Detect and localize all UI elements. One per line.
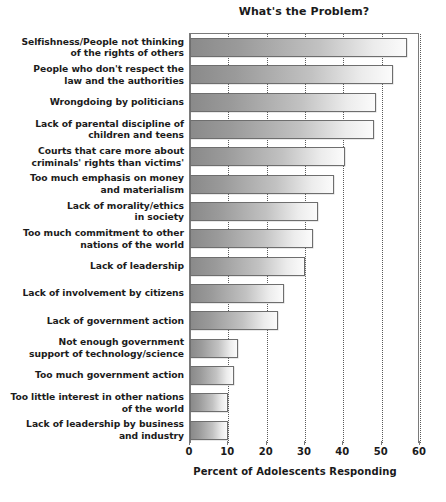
bar-row — [190, 198, 418, 225]
bar-row — [190, 389, 418, 416]
x-tick-mark — [227, 441, 228, 445]
bar-row — [190, 307, 418, 334]
category-label-line: and industry — [0, 430, 184, 442]
category-label: Too much government action — [0, 369, 184, 381]
category-label-line: Courts that care more about — [0, 145, 184, 157]
x-tick-label: 50 — [374, 446, 388, 457]
x-tick-mark — [304, 441, 305, 445]
bar[interactable] — [190, 93, 376, 112]
category-label: Lack of morality/ethicsin society — [0, 200, 184, 223]
bar[interactable] — [190, 202, 318, 221]
x-axis-title: Percent of Adolescents Responding — [150, 466, 440, 477]
category-label: Courts that care more aboutcriminals' ri… — [0, 145, 184, 168]
category-label: Too little interest in other nationsof t… — [0, 391, 184, 414]
x-axis-ticks: 0102030405060 — [189, 446, 419, 462]
x-tick-mark — [381, 441, 382, 445]
category-label-line: People who don't respect the — [0, 63, 184, 75]
page-title: What's the Problem? — [189, 5, 419, 18]
category-label-line: criminals' rights than victims' — [0, 157, 184, 169]
x-tick-label: 20 — [259, 446, 273, 457]
category-label-line: of the rights of others — [0, 47, 184, 59]
category-label: Lack of leadership — [0, 260, 184, 272]
bars-layer — [190, 34, 418, 443]
category-labels: Selfishness/People not thinkingof the ri… — [0, 33, 184, 443]
category-label: Too much commitment to othernations of t… — [0, 227, 184, 250]
gridline-60 — [420, 34, 421, 443]
bar-row — [190, 143, 418, 170]
category-label: Selfishness/People not thinkingof the ri… — [0, 36, 184, 59]
x-tick-label: 0 — [186, 446, 193, 457]
bar-row — [190, 253, 418, 280]
chart-root: What's the Problem? Selfishness/People n… — [0, 0, 446, 502]
x-tick-mark — [189, 441, 190, 445]
bar[interactable] — [190, 339, 238, 358]
category-label-line: Too little interest in other nations — [0, 391, 184, 403]
category-label-line: Lack of involvement by citizens — [0, 287, 184, 299]
bar-row — [190, 116, 418, 143]
bar-row — [190, 335, 418, 362]
category-label: People who don't respect thelaw and the … — [0, 63, 184, 86]
bar[interactable] — [190, 257, 305, 276]
x-tick-mark — [419, 441, 420, 445]
bar-row — [190, 171, 418, 198]
category-label-line: law and the authorities — [0, 75, 184, 87]
category-label-line: Lack of government action — [0, 315, 184, 327]
category-label: Lack of involvement by citizens — [0, 287, 184, 299]
x-tick-label: 40 — [335, 446, 349, 457]
category-label: Not enough governmentsupport of technolo… — [0, 336, 184, 359]
category-label-line: Lack of leadership — [0, 260, 184, 272]
x-tick-mark — [266, 441, 267, 445]
bar-row — [190, 362, 418, 389]
category-label: Lack of leadership by businessand indust… — [0, 418, 184, 441]
x-tick-label: 60 — [412, 446, 426, 457]
category-label-line: Selfishness/People not thinking — [0, 36, 184, 48]
bar[interactable] — [190, 147, 345, 166]
bar[interactable] — [190, 38, 407, 57]
category-label-line: Lack of leadership by business — [0, 418, 184, 430]
category-label-line: Not enough government — [0, 336, 184, 348]
plot-area — [189, 33, 419, 443]
bar-row — [190, 280, 418, 307]
category-label-line: support of technology/science — [0, 348, 184, 360]
category-label: Too much emphasis on moneyand materialis… — [0, 172, 184, 195]
category-label-line: Lack of parental discipline of — [0, 118, 184, 130]
x-tick-mark — [342, 441, 343, 445]
category-label-line: Too much emphasis on money — [0, 172, 184, 184]
category-label-line: and materialism — [0, 184, 184, 196]
category-label-line: Wrongdoing by politicians — [0, 96, 184, 108]
bar-row — [190, 61, 418, 88]
category-label: Lack of parental discipline ofchildren a… — [0, 118, 184, 141]
category-label-line: children and teens — [0, 129, 184, 141]
category-label: Lack of government action — [0, 315, 184, 327]
x-tick-label: 30 — [297, 446, 311, 457]
bar[interactable] — [190, 175, 334, 194]
bar-row — [190, 34, 418, 61]
bar[interactable] — [190, 229, 313, 248]
bar[interactable] — [190, 120, 374, 139]
bar-row — [190, 417, 418, 444]
category-label-line: Too much government action — [0, 369, 184, 381]
bar[interactable] — [190, 393, 228, 412]
category-label-line: nations of the world — [0, 239, 184, 251]
bar[interactable] — [190, 284, 284, 303]
category-label-line: in society — [0, 211, 184, 223]
bar-row — [190, 225, 418, 252]
bar[interactable] — [190, 311, 278, 330]
category-label: Wrongdoing by politicians — [0, 96, 184, 108]
bar[interactable] — [190, 421, 228, 440]
category-label-line: Lack of morality/ethics — [0, 200, 184, 212]
bar[interactable] — [190, 65, 393, 84]
x-tick-label: 10 — [220, 446, 234, 457]
category-label-line: of the world — [0, 403, 184, 415]
bar[interactable] — [190, 366, 234, 385]
category-label-line: Too much commitment to other — [0, 227, 184, 239]
bar-row — [190, 89, 418, 116]
